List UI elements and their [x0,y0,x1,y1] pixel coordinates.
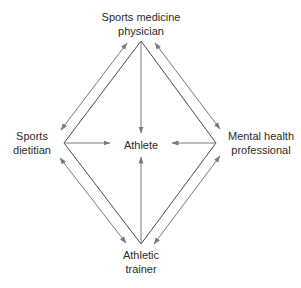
edge-top-left [64,41,141,143]
edge-top-right [141,41,216,143]
edge-bottom-right [141,143,216,244]
arrow-mental-trainer [154,156,220,244]
edge-bottom-left [64,143,141,244]
node-left-line1: Sports [2,129,62,143]
node-mental-health-professional: Mental health professional [222,129,300,157]
arrow-dietitian-trainer [60,158,126,243]
node-right-line1: Mental health [222,129,300,143]
node-sports-dietitian: Sports dietitian [2,129,62,157]
arrow-physician-mental [155,43,220,129]
node-athletic-trainer: Athletic trainer [111,248,171,276]
node-right-line2: professional [222,143,300,157]
node-bottom-line2: trainer [111,262,171,276]
node-center-label: Athlete [111,138,171,152]
arrow-physician-dietitian [61,43,127,130]
node-top-line1: Sports medicine [91,10,191,24]
node-athlete: Athlete [111,138,171,152]
node-top-line2: physician [91,24,191,38]
node-bottom-line1: Athletic [111,248,171,262]
node-sports-medicine-physician: Sports medicine physician [91,10,191,38]
node-left-line2: dietitian [2,143,62,157]
